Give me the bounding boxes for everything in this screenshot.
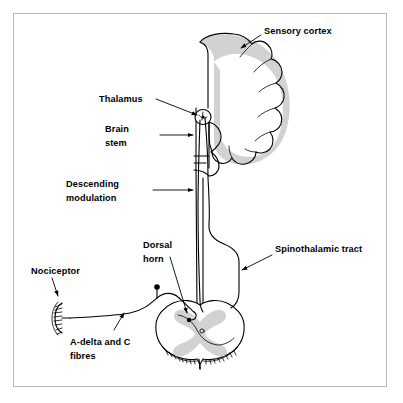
- label-spinothalamic-tract: Spinothalamic tract: [275, 244, 362, 254]
- label-thalamus: Thalamus: [99, 94, 143, 104]
- pain-pathway-diagram: Sensory cortex Thalamus Brain stem Desce…: [0, 0, 403, 403]
- descending-modulatory-tract: [198, 120, 203, 312]
- label-fibres-line1: A-delta and C: [70, 337, 131, 347]
- label-sensory-cortex: Sensory cortex: [264, 26, 333, 36]
- cerebral-hemisphere: [200, 33, 290, 164]
- label-descending-line1: Descending: [66, 179, 119, 189]
- leader-spinothalamic-tract: [242, 255, 272, 270]
- label-nociceptor: Nociceptor: [31, 266, 80, 276]
- leader-nociceptor: [52, 278, 58, 296]
- dorsal-horn-synapse: [187, 318, 191, 322]
- free-nerve-ending: [52, 302, 70, 335]
- label-descending-line2: modulation: [66, 193, 117, 203]
- label-brain-stem-line2: stem: [105, 138, 127, 148]
- label-brain-stem-line1: Brain: [105, 124, 129, 134]
- label-fibres-line2: fibres: [70, 351, 96, 361]
- label-dorsal-horn-line1: Dorsal: [143, 240, 172, 250]
- figure-root: Sensory cortex Thalamus Brain stem Desce…: [0, 0, 403, 403]
- label-dorsal-horn-line2: horn: [143, 254, 164, 264]
- spinal-cord-cross-section: [156, 301, 244, 369]
- leader-thalamus: [156, 99, 197, 115]
- leader-a-delta-c-fibres: [114, 313, 124, 330]
- dorsal-root-ganglion: [154, 284, 160, 290]
- thalamus-nucleus: [195, 110, 211, 125]
